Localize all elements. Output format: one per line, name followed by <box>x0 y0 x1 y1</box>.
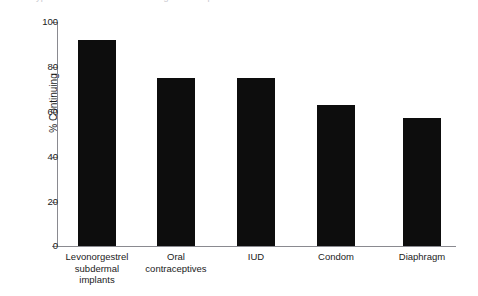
y-tick-label-60: 60 <box>32 107 58 117</box>
bar-levonorgestrel-subdermal-implants <box>78 40 116 246</box>
y-tick-label-60-wrap: 60 <box>18 107 58 117</box>
cropped-title-remnant: ypical continuation rates among contrace… <box>0 0 478 4</box>
bar-iud <box>237 78 275 246</box>
y-tick-label-40-wrap: 40 <box>18 152 58 162</box>
bar-diaphragm <box>403 118 441 246</box>
y-tick-label-100: 100 <box>32 17 58 27</box>
y-tick-label-80: 80 <box>32 62 58 72</box>
y-tick-label-20-wrap: 20 <box>18 197 58 207</box>
x-label-diaphragm: Diaphragm <box>370 251 474 263</box>
bar-oral-contraceptives <box>157 78 195 246</box>
y-tick-label-0-wrap: 0 <box>18 241 58 251</box>
y-tick-label-20: 20 <box>32 197 58 207</box>
y-tick-label-100-wrap: 100 <box>18 17 58 27</box>
bar-chart: ypical continuation rates among contrace… <box>0 0 478 296</box>
y-tick-label-80-wrap: 80 <box>18 62 58 72</box>
bar-condom <box>317 105 355 246</box>
y-tick-label-0: 0 <box>32 241 58 251</box>
plot-area <box>57 22 456 246</box>
y-tick-label-40: 40 <box>32 152 58 162</box>
x-axis-line <box>57 246 456 247</box>
